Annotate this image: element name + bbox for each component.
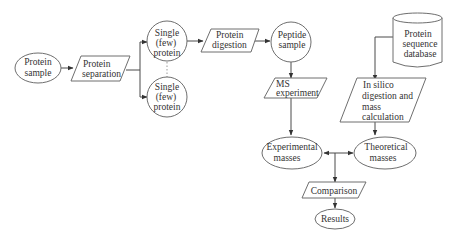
node-label: masses [274, 153, 301, 163]
node-label: Comparison [311, 186, 358, 196]
node-protein-separation: Protein separation [71, 56, 130, 81]
flowchart-diagram: Protein sample Protein separation Single… [0, 0, 455, 239]
node-label: Protein [24, 57, 52, 67]
node-label: separation [82, 69, 121, 79]
node-in-silico-digestion: In silico digestion and mass calculation [340, 78, 426, 122]
node-protein-sample: Protein sample [15, 53, 61, 83]
node-label: Protein [83, 59, 111, 69]
node-label: calculation [362, 112, 404, 122]
node-label: mass [362, 102, 381, 112]
node-label: In silico [363, 80, 394, 90]
node-label: sample [25, 68, 52, 78]
node-label: Single [155, 28, 179, 38]
node-label: Peptide [278, 30, 307, 40]
node-comparison: Comparison [302, 182, 366, 198]
edge-database-to-insilico [375, 37, 393, 80]
node-label: database [404, 49, 437, 59]
node-single-protein-1: Single (few) protein [147, 21, 187, 61]
node-label: Experimental [266, 142, 318, 152]
node-protein-sequence-database: Protein sequence database [393, 13, 442, 67]
node-label: Single [155, 82, 179, 92]
node-results: Results [315, 209, 355, 229]
node-label: Results [321, 214, 349, 224]
node-label: masses [370, 153, 397, 163]
node-ms-experiment: MS experiment [264, 78, 327, 98]
node-label: sample [279, 40, 306, 50]
node-label: protein [154, 102, 181, 112]
node-label: Theoretical [364, 142, 408, 152]
node-peptide-sample: Peptide sample [271, 22, 311, 62]
node-label: experiment [276, 88, 319, 98]
node-label: sequence [403, 39, 438, 49]
node-label: Protein [404, 29, 432, 39]
node-experimental-masses: Experimental masses [262, 137, 322, 169]
node-protein-digestion: Protein digestion [201, 29, 259, 52]
node-single-protein-2: Single (few) protein [147, 77, 187, 117]
node-label: digestion [212, 40, 247, 50]
node-theoretical-masses: Theoretical masses [354, 137, 416, 169]
node-label: protein [154, 48, 181, 58]
node-label: Protein [216, 30, 244, 40]
node-label: digestion and [362, 91, 413, 101]
